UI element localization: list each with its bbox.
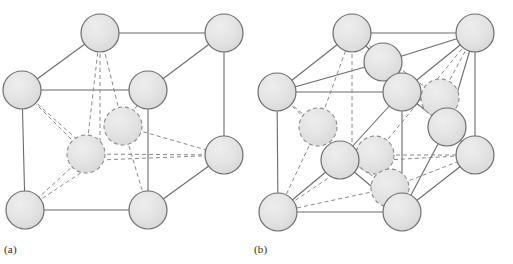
atom-b-corner-back-top-left[interactable] [333,14,371,52]
atom-a-corner-front-top-left[interactable] [3,71,41,109]
atom-b-interior-left[interactable] [321,141,359,179]
atom-a-corner-front-bottom-left[interactable] [6,191,44,229]
atom-b-face-right-front[interactable] [428,108,466,146]
atom-b-corner-front-top-left[interactable] [258,73,296,111]
figure-root: (a) (b) [0,0,513,264]
panel-a-diagram [3,14,243,229]
atom-b-face-left[interactable] [299,108,337,146]
atom-b-corner-front-bottom-left[interactable] [259,193,297,231]
panel-b-diagram [258,14,494,231]
atom-a-corner-back-bottom-right[interactable] [205,136,243,174]
atom-a-corner-back-top-left[interactable] [81,14,119,52]
atom-a-corner-front-top-right[interactable] [129,71,167,109]
atom-b-corner-back-bottom-right[interactable] [456,136,494,174]
atom-b-face-centre-upper[interactable] [383,73,421,111]
atom-b-interior-centre[interactable] [356,136,394,174]
atom-a-corner-front-bottom-right[interactable] [129,191,167,229]
bond-a-tetra-7 [86,154,224,155]
atom-b-corner-back-top-right[interactable] [456,14,494,52]
panel-label-a: (a) [4,243,17,255]
atom-a-interior-upper[interactable] [104,107,142,145]
unit-cell-diagrams [0,0,513,264]
atom-a-corner-back-top-right[interactable] [205,14,243,52]
atom-b-corner-front-bottom-right[interactable] [383,193,421,231]
panel-label-b: (b) [254,243,267,255]
atom-a-interior-lower[interactable] [67,135,105,173]
